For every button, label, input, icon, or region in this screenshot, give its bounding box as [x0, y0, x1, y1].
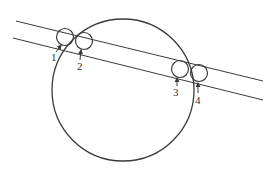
small-circle-2	[76, 33, 93, 50]
diagram-canvas: 1234	[0, 0, 279, 173]
label-3: 3	[173, 86, 179, 98]
small-circle-1	[57, 29, 74, 46]
label-1: 1	[51, 51, 57, 63]
small-circle-4	[191, 65, 208, 82]
lower-line	[13, 38, 263, 100]
label-4: 4	[195, 94, 201, 106]
small-circle-3	[172, 61, 189, 78]
arrow-icon	[80, 50, 81, 60]
label-2: 2	[77, 60, 83, 72]
labels-group: 1234	[51, 45, 201, 106]
